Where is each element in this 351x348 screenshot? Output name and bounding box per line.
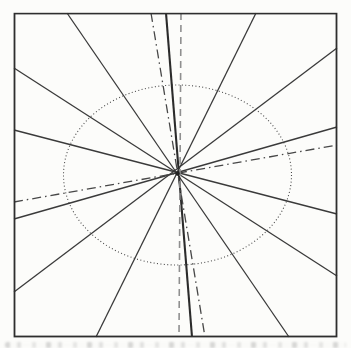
scanned-figure-page <box>0 0 351 348</box>
line-pencil-center-dot <box>175 171 179 175</box>
dashed-vertical-line <box>179 13 181 337</box>
geometry-figure <box>0 0 351 348</box>
cropped-caption-text-fragment <box>5 342 346 348</box>
top-margin-mask <box>0 0 351 13</box>
